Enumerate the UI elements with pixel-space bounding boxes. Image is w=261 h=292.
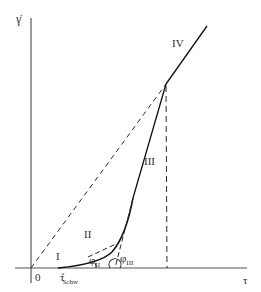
secant-dashed-line xyxy=(31,84,166,268)
origin-label: 0 xyxy=(35,272,41,283)
flow-curve-IV xyxy=(166,26,207,84)
angle-label-phi-III: φIII xyxy=(120,253,133,264)
vertical-dashed-line xyxy=(166,86,167,268)
angle-label-phi-II: φII xyxy=(89,255,100,266)
region-label-IV: IV xyxy=(172,38,184,49)
flow-curve-III xyxy=(133,84,166,198)
y-axis-label: γ̇ xyxy=(16,13,21,25)
region-label-II: II xyxy=(84,229,91,240)
region-label-III: III xyxy=(144,156,155,167)
region-label-I: I xyxy=(56,251,60,262)
diagram-canvas xyxy=(0,0,261,292)
x-axis-label: τ xyxy=(243,275,247,286)
flow-curve-diagram: γ̇ τ 0 I II III IV φII φIII τ*Schw xyxy=(0,0,261,292)
threshold-label: τ*Schw xyxy=(60,272,78,283)
